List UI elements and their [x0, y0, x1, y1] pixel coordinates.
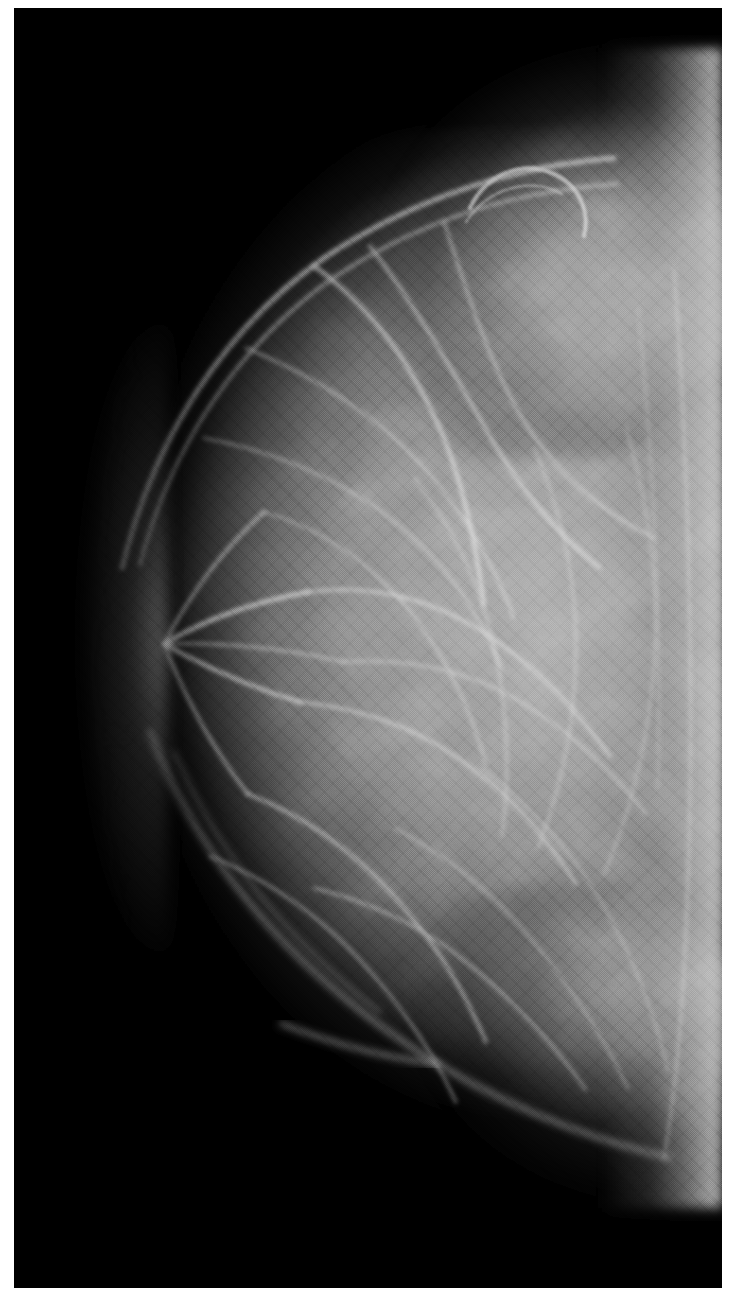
background-mask-bottom-left	[14, 868, 444, 1288]
radiograph-page: mammogram breast projected with nipple t…	[0, 0, 733, 1304]
mammogram-image	[14, 8, 722, 1288]
background-mask-top-left	[14, 8, 394, 328]
